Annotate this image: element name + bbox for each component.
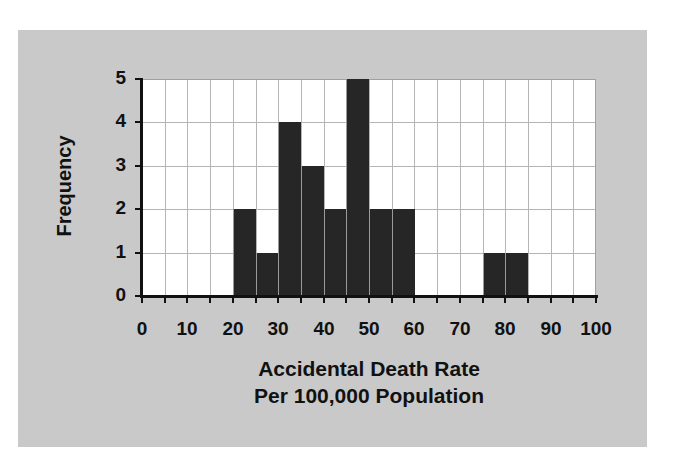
x-tick-label: 60: [392, 318, 436, 340]
histogram-bar-45-50: [346, 79, 369, 296]
y-tick-label: 3: [108, 155, 126, 175]
histogram-bar-75-80: [483, 253, 506, 296]
x-tick-mark: [436, 297, 438, 303]
grid-line-vertical: [210, 79, 211, 296]
x-tick-mark: [527, 297, 529, 303]
x-tick-mark: [345, 297, 347, 303]
x-tick-label: 100: [574, 318, 618, 340]
histogram-bar-55-60: [392, 209, 415, 296]
x-tick-mark: [391, 297, 393, 303]
y-tick-mark: [135, 252, 142, 254]
grid-line-vertical: [551, 79, 552, 296]
plot-border: [595, 79, 596, 296]
x-tick-label: 40: [302, 318, 346, 340]
x-tick-mark: [368, 297, 370, 303]
x-tick-label: 30: [256, 318, 300, 340]
x-tick-label: 50: [347, 318, 391, 340]
x-tick-label: 90: [529, 318, 573, 340]
x-tick-label: 20: [211, 318, 255, 340]
grid-line-vertical: [187, 79, 188, 296]
x-tick-mark: [209, 297, 211, 303]
y-tick-mark: [135, 208, 142, 210]
plot-area: [142, 79, 596, 296]
histogram-bar-20-25: [233, 209, 256, 296]
x-tick-mark: [595, 297, 597, 303]
histogram-bar-30-35: [278, 122, 301, 296]
histogram-bar-25-30: [256, 253, 279, 296]
grid-line-vertical: [528, 79, 529, 296]
x-tick-mark: [323, 297, 325, 303]
x-tick-mark: [232, 297, 234, 303]
x-tick-mark: [550, 297, 552, 303]
x-tick-mark: [482, 297, 484, 303]
x-axis-title-line-2: Per 100,000 Population: [142, 382, 596, 409]
x-tick-mark: [459, 297, 461, 303]
y-axis-line: [140, 78, 143, 298]
grid-line-horizontal: [142, 166, 596, 167]
x-tick-mark: [164, 297, 166, 303]
y-tick-mark: [135, 121, 142, 123]
plot-border: [142, 79, 596, 80]
x-tick-mark: [504, 297, 506, 303]
y-tick-label: 4: [108, 111, 126, 131]
x-tick-label: 70: [438, 318, 482, 340]
grid-line-horizontal: [142, 122, 596, 123]
x-axis-title-line-1: Accidental Death Rate: [142, 355, 596, 382]
x-tick-mark: [413, 297, 415, 303]
x-tick-mark: [277, 297, 279, 303]
x-tick-mark: [572, 297, 574, 303]
x-tick-label: 0: [120, 318, 164, 340]
grid-line-vertical: [460, 79, 461, 296]
x-tick-label: 10: [165, 318, 209, 340]
y-axis-title: Frequency: [53, 135, 76, 236]
x-tick-mark: [141, 297, 143, 303]
grid-line-vertical: [573, 79, 574, 296]
y-tick-label: 0: [108, 285, 126, 305]
histogram-bar-50-55: [369, 209, 392, 296]
grid-line-vertical: [165, 79, 166, 296]
y-tick-mark: [135, 78, 142, 80]
y-tick-mark: [135, 165, 142, 167]
histogram-bar-35-40: [301, 166, 324, 296]
x-tick-mark: [300, 297, 302, 303]
y-tick-label: 5: [108, 68, 126, 88]
histogram-bar-80-85: [505, 253, 528, 296]
y-tick-label: 2: [108, 198, 126, 218]
x-tick-mark: [255, 297, 257, 303]
grid-line-vertical: [437, 79, 438, 296]
histogram-bar-40-45: [324, 209, 347, 296]
x-tick-label: 80: [483, 318, 527, 340]
y-tick-label: 1: [108, 242, 126, 262]
x-tick-mark: [186, 297, 188, 303]
